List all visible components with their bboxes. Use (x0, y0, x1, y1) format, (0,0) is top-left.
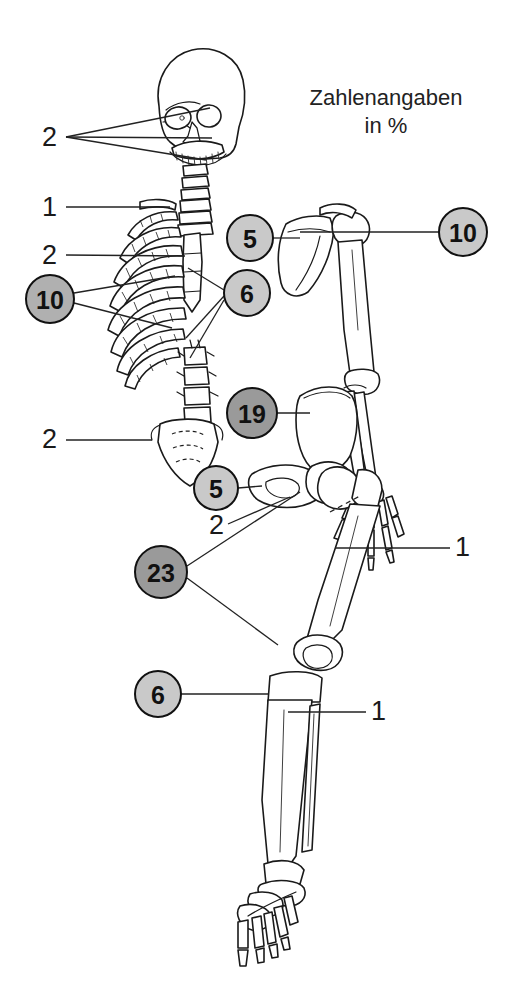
toe-4 (281, 937, 290, 950)
tibia-plateau (268, 672, 322, 702)
scapula (278, 216, 334, 296)
phalanx-5 (392, 516, 404, 537)
badge-10-ribs: 10 (26, 275, 74, 323)
badge-6-spine-value: 6 (240, 280, 254, 308)
ribs-left (108, 212, 186, 389)
badge-5-hip: 5 (194, 466, 238, 510)
badge-6-tibia-value: 6 (151, 681, 165, 709)
badge-23-femur: 23 (135, 546, 187, 598)
badge-layer: 105610195236 (26, 208, 487, 717)
badge-19-pelvis: 19 (227, 388, 277, 438)
cervical-spine (178, 164, 213, 236)
metatarsal-1 (238, 920, 248, 948)
lumbar-spine-group (151, 340, 222, 486)
ilium (296, 387, 357, 472)
skull-group (158, 49, 245, 166)
metacarpal-4 (378, 500, 388, 526)
label-1-clavicle: 1 (42, 194, 57, 221)
phalanx-tip-3 (368, 558, 374, 570)
vertebra-c4 (180, 199, 211, 212)
badge-6-spine: 6 (224, 270, 270, 316)
skeleton-figure: 105610195236 Zahlenangaben in % 2122211 (0, 0, 514, 985)
label-2-skull: 2 (42, 124, 57, 151)
vertebra-l3 (184, 387, 210, 405)
label-2-sternum: 2 (42, 242, 57, 269)
label-2-sacrum: 2 (42, 426, 57, 453)
metatarsal-4 (274, 906, 288, 937)
leader-femur-b (187, 578, 278, 645)
vertebra-c2 (182, 176, 209, 188)
label-1-fibula: 1 (371, 698, 386, 725)
badge-10-humerus: 10 (439, 208, 487, 256)
toe-1 (238, 950, 248, 966)
badge-10-humerus-value: 10 (449, 219, 477, 247)
toe-2 (256, 948, 264, 963)
badge-5-scapula-value: 5 (243, 225, 257, 253)
greater-trochanter (352, 470, 382, 508)
femur-condyles (294, 635, 343, 670)
right-leg-group (238, 387, 382, 966)
clavicle (140, 200, 176, 210)
vertebra-c1 (183, 164, 208, 176)
figure-title: Zahlenangaben in % (286, 84, 486, 139)
metatarsal-3 (264, 912, 276, 944)
toe-3 (269, 944, 278, 958)
vertebra-c5 (179, 211, 212, 224)
label-1-hand: 1 (455, 534, 470, 561)
metatarsal-2 (252, 916, 264, 948)
vertebra-l2 (184, 367, 209, 385)
phalanx-4 (382, 526, 392, 550)
badge-6-tibia: 6 (135, 671, 181, 717)
label-2-femurneck: 2 (209, 512, 224, 539)
phalanx-tip-4 (386, 550, 394, 563)
badge-10-ribs-value: 10 (36, 286, 64, 314)
vertebra-c3 (181, 188, 210, 200)
title-line-1: Zahlenangaben (310, 85, 463, 110)
sternum (183, 233, 202, 312)
right-arm-group (278, 204, 404, 570)
skeleton-illustration: 105610195236 (0, 0, 514, 985)
badge-5-scapula: 5 (227, 215, 273, 261)
badge-23-femur-value: 23 (147, 559, 175, 587)
badge-19-pelvis-value: 19 (238, 400, 266, 428)
badge-5-hip-value: 5 (209, 475, 223, 503)
metacarpal-5 (386, 496, 398, 518)
foot-group (238, 861, 305, 966)
title-line-2: in % (286, 112, 486, 140)
